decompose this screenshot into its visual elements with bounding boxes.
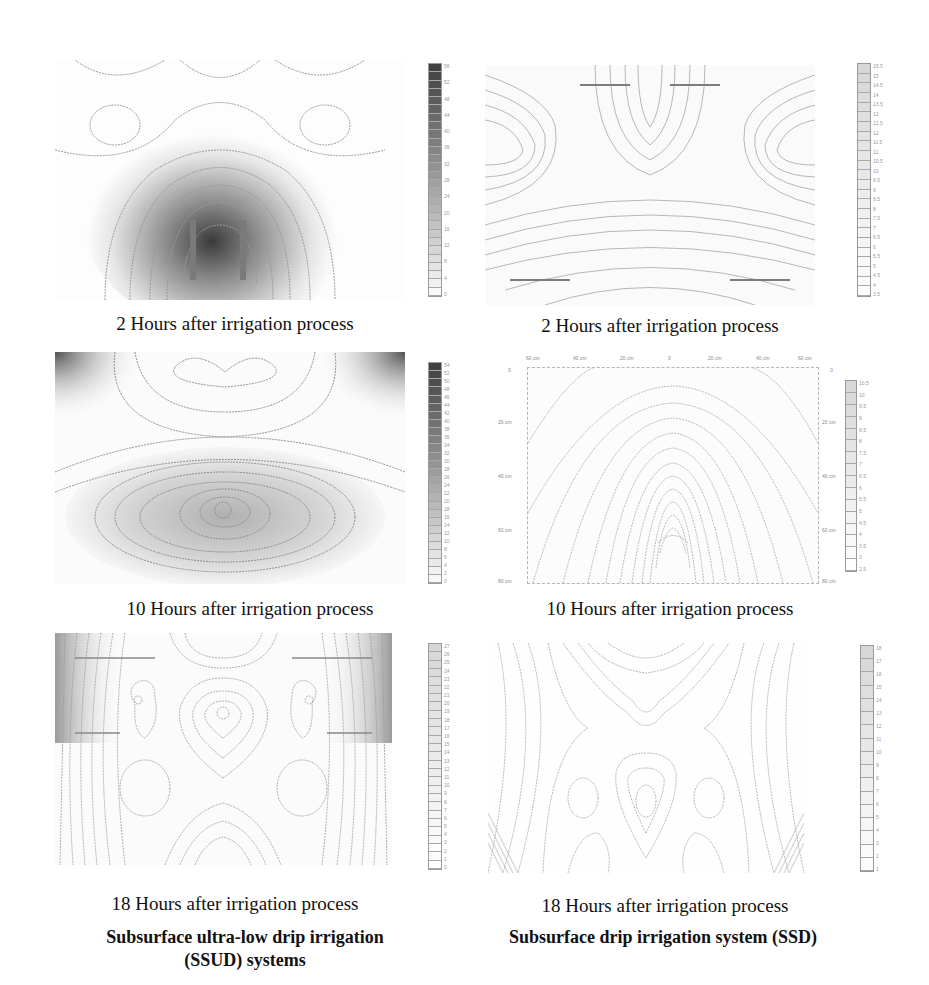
colorbar-tick-label: 20 <box>441 499 450 504</box>
colorbar-cell <box>429 188 441 196</box>
colorbar-tick-label: 13.5 <box>870 102 883 107</box>
system-title-ssd: Subsurface drip irrigation system (SSD) <box>478 926 848 949</box>
colorbar-tick-label: 17 <box>873 659 882 664</box>
colorbar-cell <box>429 428 441 436</box>
colorbar-cell <box>861 672 873 685</box>
colorbar-cell <box>429 844 441 852</box>
colorbar-cell <box>429 644 441 652</box>
colorbar-tick-label: 17 <box>441 726 450 731</box>
colorbar-tick-label: 15 <box>873 685 882 690</box>
colorbar-tick-label: 24 <box>441 194 450 199</box>
colorbar-cell <box>861 765 873 778</box>
colorbar-cell <box>429 744 441 752</box>
colorbar-cell <box>858 161 870 171</box>
colorbar-cell <box>429 147 441 155</box>
colorbar-tick-label: 4 <box>870 283 876 288</box>
colorbar-cell <box>429 719 441 727</box>
colorbar-cell <box>429 827 441 835</box>
colorbar-cell <box>429 510 441 518</box>
colorbar-cell <box>858 122 870 132</box>
colorbar-tick-label: 6.5 <box>870 235 880 240</box>
colorbar-cell <box>429 288 441 296</box>
colorbar-tick-label: 48 <box>441 97 450 102</box>
colorbar-cell <box>429 836 441 844</box>
colorbar-tick-label: 40 <box>441 129 450 134</box>
colorbar-tick-label: 8.5 <box>856 428 866 433</box>
x-tick-label: 0 <box>668 355 671 361</box>
colorbar-cell <box>429 387 441 395</box>
colorbar-cell <box>858 132 870 142</box>
colorbar-tick-label: 12.5 <box>870 121 883 126</box>
caption-ssd-2h: 2 Hours after irrigation process <box>490 315 830 337</box>
colorbar-tick-label: 14 <box>441 750 450 755</box>
colorbar-tick-label: 36 <box>441 435 450 440</box>
colorbar-tick-label: 7.5 <box>870 216 880 221</box>
colorbar-tick-label: 4 <box>441 832 447 837</box>
colorbar-tick-label: 10.5 <box>856 381 869 386</box>
colorbar-tick-label: 10 <box>870 169 879 174</box>
colorbar-cell <box>858 199 870 209</box>
colorbar-tick-label: 30 <box>441 459 450 464</box>
colorbar-cell <box>846 381 856 393</box>
colorbar-cell <box>858 151 870 161</box>
colorbar-tick-label: 12 <box>441 767 450 772</box>
colorbar-tick-label: 4.5 <box>856 521 866 526</box>
colorbar-cell <box>846 417 856 429</box>
colorbar-tick-label: 3.5 <box>856 544 866 549</box>
colorbar-cell <box>429 794 441 802</box>
colorbar-cell <box>861 752 873 765</box>
colorbar-tick-label: 40 <box>441 419 450 424</box>
colorbar-tick-label: 10.5 <box>870 159 883 164</box>
colorbar-cell <box>846 405 856 417</box>
colorbar-tick-label: 6 <box>870 245 876 250</box>
colorbar-tick-label: 5 <box>873 815 879 820</box>
colorbar-cell <box>429 197 441 205</box>
colorbar-tick-label: 7 <box>441 808 447 813</box>
colorbar-tick-label: 34 <box>441 443 450 448</box>
colorbar-cell <box>858 190 870 200</box>
contour-plot-ssd-10h <box>527 367 819 584</box>
colorbar-tick-label: 4 <box>441 563 447 568</box>
colorbar-tick-label: 32 <box>441 162 450 167</box>
colorbar-cell <box>429 105 441 113</box>
caption-ssd-10h: 10 Hours after irrigation process <box>500 598 840 620</box>
colorbar-cell <box>858 141 870 151</box>
colorbar-tick-label: 27 <box>441 644 450 649</box>
colorbar-cell <box>429 652 441 660</box>
colorbar-tick-label: 7 <box>856 462 862 467</box>
colorbar-cell <box>846 559 856 571</box>
colorbar-cell <box>858 238 870 248</box>
colorbar-tick-label: 0 <box>441 865 447 870</box>
colorbar-tick-label: 52 <box>441 80 450 85</box>
caption-ssud-2h: 2 Hours after irrigation process <box>65 313 405 335</box>
system-title-ssud: Subsurface ultra-low drip irrigation (SS… <box>85 926 405 972</box>
colorbar-cell <box>429 861 441 869</box>
colorbar-tick-label: 32 <box>441 451 450 456</box>
colorbar-tick-label: 54 <box>441 363 450 368</box>
colorbar-tick-label: 3 <box>856 555 862 560</box>
colorbar-cell <box>429 485 441 493</box>
colorbar-cell <box>858 219 870 229</box>
colorbar-tick-label: 12 <box>873 724 882 729</box>
colorbar-cell <box>846 452 856 464</box>
colorbar-tick-label: 10 <box>441 783 450 788</box>
colorbar-tick-label: 14 <box>870 93 879 98</box>
colorbar-ssd-2h: 15.51514.51413.51312.51211.51110.5109.59… <box>857 63 871 297</box>
colorbar-cell <box>429 139 441 147</box>
y-tick-label-right: 0 <box>830 367 833 373</box>
colorbar-cell <box>429 238 441 246</box>
colorbar-cell <box>858 267 870 277</box>
colorbar-tick-label: 44 <box>441 403 450 408</box>
colorbar-cell <box>429 526 441 534</box>
colorbar-tick-label: 8 <box>441 800 447 805</box>
colorbar-cell <box>429 567 441 575</box>
y-tick-label: 20 cm <box>498 419 512 425</box>
colorbar-cell <box>429 575 441 583</box>
x-tick-label: 60 cm <box>526 355 540 361</box>
colorbar-cell <box>429 205 441 213</box>
contour-plot-ssud-18h <box>55 633 392 865</box>
colorbar-cell <box>429 727 441 735</box>
colorbar-ssud-2h: 565248444036322824201612840 <box>428 63 442 297</box>
y-tick-label-right: 40 cm <box>822 473 836 479</box>
colorbar-tick-label: 1 <box>441 857 447 862</box>
